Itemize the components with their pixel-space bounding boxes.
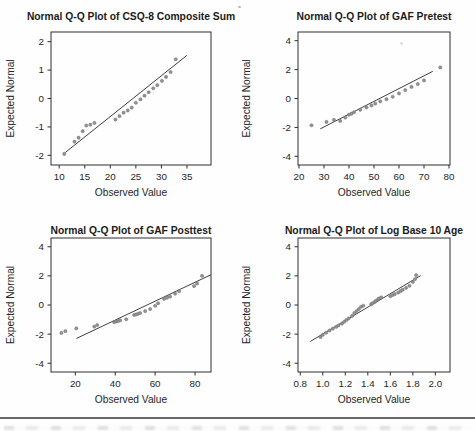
data-point	[328, 329, 331, 332]
y-axis-label: Expected Normal	[5, 59, 16, 137]
page: Normal Q-Q Plot of CSQ-8 Composite Sum10…	[0, 0, 475, 431]
plot-title: Normal Q-Q Plot of CSQ-8 Composite Sum	[27, 11, 235, 22]
x-tick-label: 70	[419, 171, 430, 182]
data-point	[152, 87, 155, 90]
data-point	[147, 91, 150, 94]
plot-title: Normal Q-Q Plot of GAF Posttest	[51, 225, 212, 236]
data-point	[169, 295, 172, 298]
x-tick-label: 35	[182, 171, 193, 182]
data-point	[410, 85, 413, 88]
qq-plot-log-base-10-age: Normal Q-Q Plot of Log Base 10 Age0.81.0…	[238, 215, 475, 431]
data-point	[370, 104, 373, 107]
data-point	[331, 327, 334, 330]
fit-line	[320, 71, 433, 129]
data-point	[73, 140, 76, 143]
y-tick-label: 2	[39, 270, 44, 281]
data-point	[192, 284, 195, 287]
y-tick-label: 2	[286, 64, 291, 75]
y-axis-label: Expected Normal	[241, 59, 252, 137]
data-point	[143, 94, 146, 97]
x-tick-label: 30	[156, 171, 167, 182]
data-point	[156, 84, 159, 87]
y-tick-label: 0	[286, 299, 292, 310]
data-point	[157, 302, 160, 305]
y-tick-label: 0	[39, 299, 45, 310]
x-tick-label: 50	[369, 171, 380, 182]
x-tick-label: 1.8	[406, 378, 420, 389]
fit-line	[65, 55, 187, 152]
x-tick-label: 40	[110, 378, 121, 389]
y-tick-label: -1	[35, 121, 44, 132]
x-tick-label: 2.0	[429, 378, 443, 389]
y-tick-label: 2	[286, 270, 291, 281]
plot-title: Normal Q-Q Plot of GAF Pretest	[296, 11, 452, 22]
qq-plot-gaf-posttest: Normal Q-Q Plot of GAF Posttest20406080-…	[0, 215, 237, 431]
data-point	[81, 130, 84, 133]
data-point	[139, 98, 142, 101]
x-tick-label: 0.8	[293, 378, 307, 389]
scan-speck	[238, 6, 241, 8]
data-point	[310, 124, 313, 127]
data-point	[325, 331, 328, 334]
x-tick-label: 25	[130, 171, 141, 182]
plot-frame	[51, 238, 211, 372]
data-point	[408, 284, 411, 287]
plot-frame	[298, 32, 450, 165]
y-tick-label: -2	[35, 329, 44, 340]
data-point	[393, 292, 396, 295]
data-point	[344, 116, 347, 119]
plot-title: Normal Q-Q Plot of Log Base 10 Age	[285, 225, 463, 236]
data-point	[174, 58, 177, 61]
data-point	[404, 286, 407, 289]
data-point	[332, 118, 335, 121]
data-point	[177, 290, 180, 293]
data-point	[93, 121, 96, 124]
data-point	[60, 331, 63, 334]
y-tick-label: -2	[35, 150, 44, 161]
y-tick-label: 0	[39, 93, 45, 104]
data-point	[149, 307, 152, 310]
data-point	[404, 89, 407, 92]
x-tick-label: 1.0	[316, 378, 330, 389]
x-tick-label: 30	[319, 171, 330, 182]
data-point	[166, 296, 169, 299]
data-point	[139, 311, 142, 314]
data-point	[160, 79, 163, 82]
y-tick-label: 4	[39, 241, 45, 252]
x-axis-label: Observed Value	[338, 394, 411, 405]
x-tick-label: 60	[150, 378, 161, 389]
y-tick-label: -2	[282, 122, 291, 133]
x-tick-label: 20	[294, 171, 305, 182]
data-point	[118, 115, 121, 118]
plot-frame	[298, 238, 450, 372]
data-point	[359, 108, 362, 111]
data-point	[154, 304, 157, 307]
data-point	[144, 310, 147, 313]
y-tick-label: 2	[39, 36, 44, 47]
data-point	[173, 292, 176, 295]
data-point	[415, 274, 418, 277]
data-point	[380, 296, 383, 299]
y-tick-label: -4	[282, 151, 291, 162]
x-axis-label: Observed Value	[338, 187, 411, 198]
y-tick-label: -4	[35, 358, 44, 369]
data-point	[64, 330, 67, 333]
page-footer-rule	[0, 417, 475, 419]
data-point	[413, 277, 416, 280]
data-point	[365, 106, 368, 109]
data-point	[93, 325, 96, 328]
data-point	[397, 92, 400, 95]
data-point	[339, 119, 342, 122]
data-point	[337, 324, 340, 327]
data-point	[325, 120, 328, 123]
data-point	[422, 79, 425, 82]
x-axis-label: Observed Value	[95, 394, 168, 405]
data-point	[169, 70, 172, 73]
data-point	[122, 111, 125, 114]
data-point	[385, 98, 388, 101]
data-point	[114, 118, 117, 121]
data-point	[347, 317, 350, 320]
data-point	[411, 280, 414, 283]
y-tick-label: 4	[286, 35, 292, 46]
data-point	[350, 314, 353, 317]
